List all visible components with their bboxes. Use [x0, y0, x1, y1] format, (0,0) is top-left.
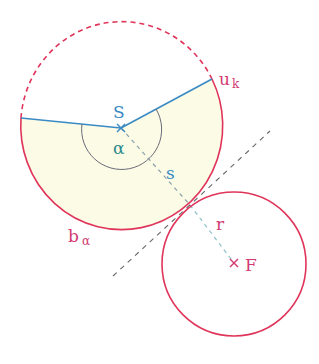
- label-b-alpha: bα: [68, 226, 90, 248]
- diagram-canvas: S α s uk bα r F: [0, 0, 319, 364]
- f-center-marker-icon: [230, 259, 238, 267]
- label-alpha: α: [113, 138, 125, 158]
- label-f-center: F: [245, 255, 257, 275]
- circle-f: [162, 192, 306, 336]
- label-r: r: [216, 214, 225, 234]
- radius-r-line: [190, 205, 234, 263]
- label-u-k: uk: [219, 69, 240, 91]
- sector-diagram: S α s uk bα r F: [0, 0, 319, 364]
- label-s-distance: s: [166, 163, 175, 183]
- label-s-center: S: [113, 102, 125, 122]
